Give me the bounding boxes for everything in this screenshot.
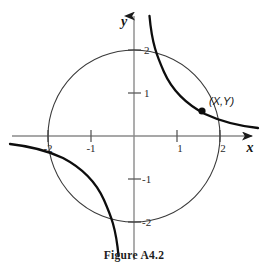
y-axis-label: y bbox=[119, 14, 128, 29]
y-tick-label-1: 1 bbox=[144, 87, 150, 99]
intersection-point-label: (X,Y) bbox=[209, 95, 234, 107]
intersection-point-dot bbox=[198, 107, 205, 114]
figure-caption: Figure A4.2 bbox=[0, 249, 268, 261]
hyperbola-lower-left bbox=[10, 144, 119, 256]
x-tick-label-2: 2 bbox=[220, 142, 226, 154]
x-tick-label--1: -1 bbox=[86, 142, 95, 154]
y-tick-label-2: 2 bbox=[144, 44, 150, 56]
figure-a4-2: -2 -1 1 2 2 1 -1 -2 y x (X,Y) Figure A4.… bbox=[0, 0, 268, 272]
x-tick-label-1: 1 bbox=[177, 142, 183, 154]
plot-canvas: -2 -1 1 2 2 1 -1 -2 y x (X,Y) bbox=[0, 0, 268, 272]
x-axis-label: x bbox=[246, 140, 254, 155]
y-tick-label--1: -1 bbox=[142, 173, 151, 185]
